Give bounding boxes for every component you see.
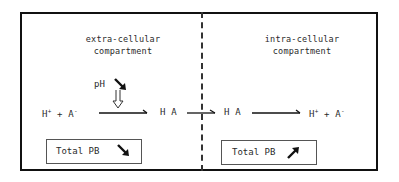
plus-sign: + <box>324 109 330 119</box>
hollow-down-arrow-icon <box>112 90 124 110</box>
extracellular-total-pb-box: Total PB <box>46 139 142 164</box>
extracellular-reactants: H+ + A- <box>42 107 78 119</box>
extracellular-title: extra-cellular compartment <box>73 33 173 57</box>
ph-label: pH <box>94 79 105 89</box>
anion-charge: - <box>74 107 78 114</box>
dissociation-arrow-icon <box>252 108 302 116</box>
anion-charge: - <box>341 107 345 114</box>
intracellular-title: intra-cellular compartment <box>252 33 352 57</box>
extracellular-title-line1: extra-cellular <box>73 33 173 45</box>
total-pb-up-arrow-icon <box>287 145 301 159</box>
intracellular-products: H+ + A- <box>309 107 345 119</box>
intracellular-total-pb-box: Total PB <box>221 140 317 165</box>
intracellular-ha: H A <box>224 107 241 117</box>
extracellular-total-pb-label: Total PB <box>56 146 99 156</box>
intracellular-total-pb-label: Total PB <box>232 147 275 157</box>
intracellular-title-line1: intra-cellular <box>252 33 352 45</box>
reaction-arrow-icon <box>99 108 149 116</box>
proton-charge: + <box>48 107 52 114</box>
proton-charge: + <box>315 107 319 114</box>
membrane-divider <box>201 12 203 171</box>
intracellular-title-line2: compartment <box>252 45 352 57</box>
total-pb-down-arrow-icon <box>117 144 131 158</box>
plus-sign: + <box>57 109 63 119</box>
extracellular-title-line2: compartment <box>73 45 173 57</box>
extracellular-ha: H A <box>160 107 177 117</box>
membrane-crossing-arrow-icon <box>187 108 217 116</box>
